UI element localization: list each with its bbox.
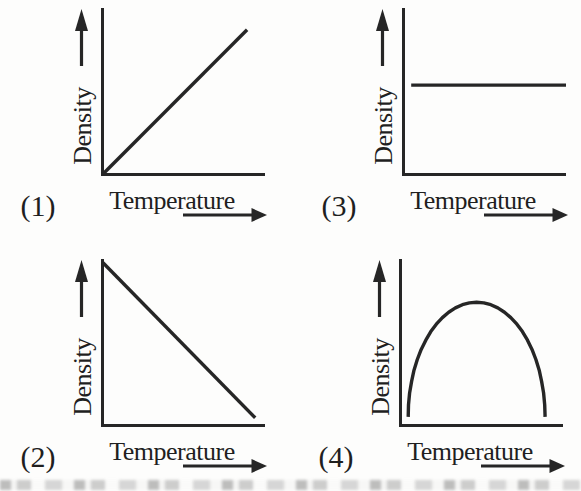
panel-3: Density Temperature (3) [301, 0, 581, 230]
right-arrow-icon [252, 208, 268, 222]
panel-1: Density Temperature (1) [0, 0, 280, 230]
right-arrow-icon [252, 459, 268, 473]
x-axis-label: Temperature [109, 439, 235, 465]
right-arrow-icon [550, 459, 566, 473]
up-arrow-icon [373, 260, 386, 282]
x-axis-label: Temperature [410, 188, 536, 214]
up-arrow-icon [75, 260, 88, 282]
x-axis-label: Temperature [407, 439, 533, 465]
x-axis-label: Temperature [109, 188, 235, 214]
scan-noise-strip [0, 480, 580, 490]
y-axis-label: Density [70, 338, 96, 415]
data-curve-dome [408, 302, 545, 417]
y-axis-label: Density [371, 87, 397, 164]
data-curve-increasing [103, 30, 247, 174]
up-arrow-icon [75, 9, 88, 31]
panel-number-label: (4) [319, 442, 354, 472]
panel-number-label: (1) [21, 191, 56, 221]
y-axis-label: Density [70, 87, 96, 164]
right-arrow-icon [553, 208, 569, 222]
panel-4: Density Temperature (4) [298, 251, 578, 481]
y-axis-label: Density [368, 338, 394, 415]
panel-2: Density Temperature (2) [0, 251, 280, 481]
panel-number-label: (2) [21, 442, 56, 472]
data-curve-decreasing [103, 263, 255, 418]
panel-number-label: (3) [322, 191, 357, 221]
up-arrow-icon [376, 9, 389, 31]
